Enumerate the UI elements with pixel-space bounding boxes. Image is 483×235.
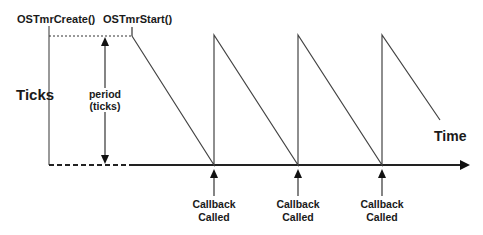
callback-label-1: Callback Called xyxy=(184,198,244,224)
callback-label-line1: Callback xyxy=(352,198,412,211)
callback-arrowhead-2 xyxy=(294,169,302,178)
callback-label-3: Callback Called xyxy=(352,198,412,224)
period-label-line1: period xyxy=(75,88,135,100)
callback-label-line1: Callback xyxy=(268,198,328,211)
x-axis-label: Time xyxy=(434,128,466,144)
callback-label-line1: Callback xyxy=(184,198,244,211)
callback-label-line2: Called xyxy=(184,211,244,224)
callback-label-2: Callback Called xyxy=(268,198,328,224)
period-arrowhead-up xyxy=(101,37,109,46)
create-call-label: OSTmrCreate() xyxy=(17,13,95,25)
countdown-sawtooth xyxy=(132,35,440,165)
period-arrowhead-down xyxy=(101,155,109,164)
callback-label-line2: Called xyxy=(268,211,328,224)
callback-arrowhead-3 xyxy=(378,169,386,178)
period-label: period (ticks) xyxy=(75,88,135,112)
y-axis-label: Ticks xyxy=(16,86,54,103)
start-call-label: OSTmrStart() xyxy=(103,13,172,25)
callback-arrowhead-1 xyxy=(210,169,218,178)
time-axis-arrowhead xyxy=(460,160,470,170)
callback-label-line2: Called xyxy=(352,211,412,224)
period-label-line2: (ticks) xyxy=(75,100,135,112)
